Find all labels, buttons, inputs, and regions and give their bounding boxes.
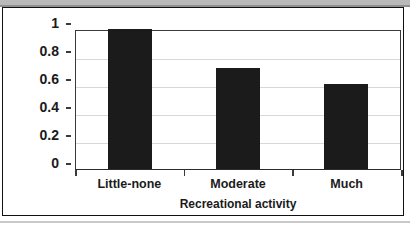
- y-axis-tick-label: 0: [19, 156, 59, 170]
- x-axis-tick-label: Little-none: [75, 178, 184, 191]
- y-axis-tick-label: 0.8: [19, 44, 59, 58]
- y-axis-tick-mark: [66, 79, 71, 81]
- plot-area: [75, 30, 401, 170]
- y-axis-tick-mark: [66, 135, 71, 137]
- scan-artifact-top-band: [0, 0, 410, 7]
- bar-group: [76, 31, 400, 169]
- figure: Relative risk of hospitalization for GER…: [0, 0, 410, 225]
- x-axis-tick-group: [75, 170, 401, 176]
- scan-artifact-bottom-line: [0, 221, 410, 223]
- x-axis-tick-mark: [75, 170, 77, 176]
- y-axis-tick-mark: [66, 107, 71, 109]
- y-axis-tick-mark: [66, 163, 71, 165]
- bar: [324, 84, 368, 169]
- bar: [216, 68, 260, 169]
- y-axis-tick-label: 0.4: [19, 100, 59, 114]
- x-axis-tick-label: Moderate: [184, 178, 293, 191]
- x-axis-title: Recreational activity: [75, 198, 401, 210]
- x-axis-tick-mark: [292, 170, 294, 176]
- x-axis-tick-label: Much: [292, 178, 401, 191]
- x-axis-tick-mark: [184, 170, 186, 176]
- y-axis-tick-mark: [66, 51, 71, 53]
- figure-frame: Relative risk of hospitalization for GER…: [2, 7, 404, 216]
- bar: [108, 29, 152, 169]
- y-axis-tick-label: 0.6: [19, 72, 59, 86]
- bar-slot: [76, 31, 184, 169]
- y-axis-tick-label: 1: [19, 16, 59, 30]
- bar-slot: [184, 31, 292, 169]
- bar-slot: [292, 31, 400, 169]
- y-axis-tick-mark: [66, 23, 71, 25]
- y-axis-tick-label: 0.2: [19, 128, 59, 142]
- x-axis-tick-labels: Little-noneModerateMuch: [75, 178, 401, 191]
- x-axis-tick-mark: [401, 170, 403, 176]
